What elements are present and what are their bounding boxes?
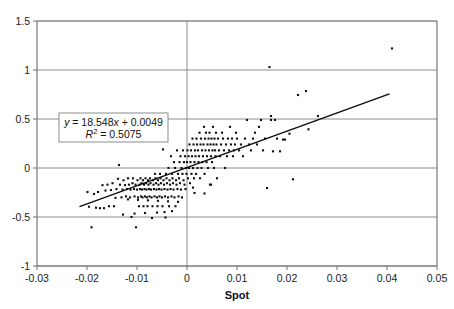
data-point (190, 149, 192, 151)
plot-background (37, 21, 437, 266)
data-point (211, 149, 213, 151)
data-point (187, 177, 189, 179)
data-point (252, 138, 254, 140)
data-point (176, 188, 178, 190)
data-point (144, 195, 146, 197)
data-point (145, 189, 147, 191)
data-point (202, 143, 204, 145)
data-point (149, 177, 151, 179)
data-point (131, 182, 133, 184)
data-point (260, 119, 262, 121)
data-point (114, 197, 116, 199)
data-point (317, 115, 319, 117)
data-point (133, 188, 135, 190)
data-point (274, 119, 276, 121)
data-point (128, 184, 130, 186)
data-point (184, 188, 186, 190)
data-point (133, 195, 135, 197)
data-point (156, 212, 158, 214)
data-point (182, 149, 184, 151)
data-point (147, 199, 149, 201)
data-point (213, 138, 215, 140)
data-point (202, 155, 204, 157)
data-point (214, 149, 216, 151)
x-tick-marks (37, 266, 437, 270)
x-tick-label: 0.05 (427, 272, 448, 284)
data-point (183, 184, 185, 186)
x-tick-label: -0.01 (125, 272, 149, 284)
data-point (175, 179, 177, 181)
data-point (215, 143, 217, 145)
data-point (147, 184, 149, 186)
data-point (127, 177, 129, 179)
data-point (88, 206, 90, 208)
data-point (276, 138, 278, 140)
y-tick-marks (33, 21, 37, 266)
data-point (210, 138, 212, 140)
data-point (181, 173, 183, 175)
data-point (203, 126, 205, 128)
data-point (146, 196, 148, 198)
chart-canvas: 1.510.50-0.5-1-0.03-0.02-0.0100.010.020.… (0, 0, 454, 309)
data-point (173, 196, 175, 198)
data-point (137, 199, 139, 201)
data-point (305, 90, 307, 92)
data-point (95, 207, 97, 209)
data-point (186, 149, 188, 151)
data-point (158, 188, 160, 190)
data-point (250, 149, 252, 151)
data-point (200, 138, 202, 140)
data-point (223, 149, 225, 151)
data-point (204, 149, 206, 151)
data-point (262, 149, 264, 151)
data-point (186, 161, 188, 163)
data-point (232, 155, 234, 157)
data-point (164, 195, 166, 197)
data-point (179, 155, 181, 157)
data-point (174, 205, 176, 207)
data-point (205, 132, 207, 134)
data-point (279, 150, 281, 152)
data-point (170, 155, 172, 157)
data-point (224, 167, 226, 169)
data-point (108, 205, 110, 207)
data-point (229, 126, 231, 128)
scatter-chart-figure: 1.510.50-0.5-1-0.03-0.02-0.0100.010.020.… (0, 0, 454, 309)
data-point (144, 212, 146, 214)
data-point (101, 184, 103, 186)
data-point (90, 226, 92, 228)
data-point (142, 205, 144, 207)
data-point (188, 143, 190, 145)
data-point (165, 177, 167, 179)
data-point (217, 138, 219, 140)
data-point (157, 179, 159, 181)
data-point (240, 143, 242, 145)
data-point (154, 173, 156, 175)
data-point (151, 217, 153, 219)
data-point (138, 205, 140, 207)
data-point (136, 189, 138, 191)
data-point (173, 161, 175, 163)
data-point (208, 149, 210, 151)
data-point (170, 195, 172, 197)
data-point (210, 155, 212, 157)
data-point (111, 182, 113, 184)
data-point (106, 184, 108, 186)
data-point (282, 139, 284, 141)
data-point (139, 188, 141, 190)
data-point (284, 139, 286, 141)
data-point (161, 205, 163, 207)
data-point (103, 207, 105, 209)
data-point (297, 94, 299, 96)
data-point (272, 150, 274, 152)
data-point (180, 189, 182, 191)
data-point (198, 155, 200, 157)
data-point (218, 149, 220, 151)
data-point (177, 201, 179, 203)
data-point (167, 167, 169, 169)
data-point (177, 173, 179, 175)
data-point (226, 155, 228, 157)
data-point (143, 188, 145, 190)
data-point (113, 205, 115, 207)
data-point (191, 155, 193, 157)
